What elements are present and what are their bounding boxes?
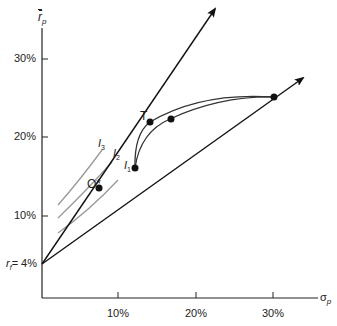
x-tick-20: 20%: [185, 307, 207, 319]
point-t: [147, 119, 154, 126]
label-t: T: [140, 109, 147, 123]
x-tick-10: 10%: [107, 307, 129, 319]
x-axis-label: σp: [320, 291, 331, 306]
x-tick-30: 30%: [262, 307, 284, 319]
label-i3: I3: [98, 137, 105, 151]
indifference-curve-i2: [58, 162, 112, 218]
frontier-lower: [135, 97, 274, 168]
y-axis-label: r̄p: [38, 10, 46, 26]
point-high: [271, 94, 278, 101]
cml-line: [42, 9, 215, 264]
second-line: [42, 78, 303, 264]
y-tick-30: 30%: [14, 52, 36, 64]
y-tick-10: 10%: [14, 209, 36, 221]
portfolio-diagram: [0, 0, 337, 326]
rf-label: rf= 4%: [6, 257, 37, 271]
label-o-star: O*: [87, 177, 101, 191]
frontier-upper: [135, 96, 274, 168]
point-mid: [168, 116, 175, 123]
label-i2: I2: [113, 147, 120, 161]
point-min: [132, 165, 139, 172]
label-i1: I1: [124, 159, 131, 173]
y-tick-20: 20%: [14, 130, 36, 142]
